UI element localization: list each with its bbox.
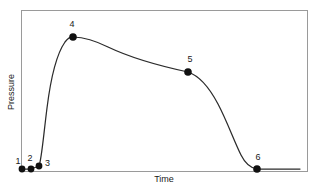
data-point-6 — [253, 165, 261, 173]
plot-frame — [22, 11, 308, 172]
y-axis-title: Pressure — [6, 74, 16, 110]
data-point-3 — [36, 163, 43, 170]
data-point-label-6: 6 — [255, 152, 260, 162]
data-point-label-4: 4 — [69, 19, 74, 29]
data-point-4 — [69, 33, 77, 41]
pressure-time-line-chart: 1 2 3 4 5 6 Time Pressure — [0, 0, 320, 189]
data-point-1 — [19, 166, 26, 173]
data-point-label-3: 3 — [45, 158, 50, 168]
data-point-2 — [28, 166, 35, 173]
data-point-label-5: 5 — [187, 54, 192, 64]
pressure-curve — [22, 37, 300, 169]
x-axis-title: Time — [154, 174, 174, 184]
data-point-label-1: 1 — [15, 156, 20, 166]
chart-figure: 1 2 3 4 5 6 Time Pressure — [0, 0, 320, 189]
data-point-label-2: 2 — [27, 153, 32, 163]
data-point-5 — [184, 68, 192, 76]
